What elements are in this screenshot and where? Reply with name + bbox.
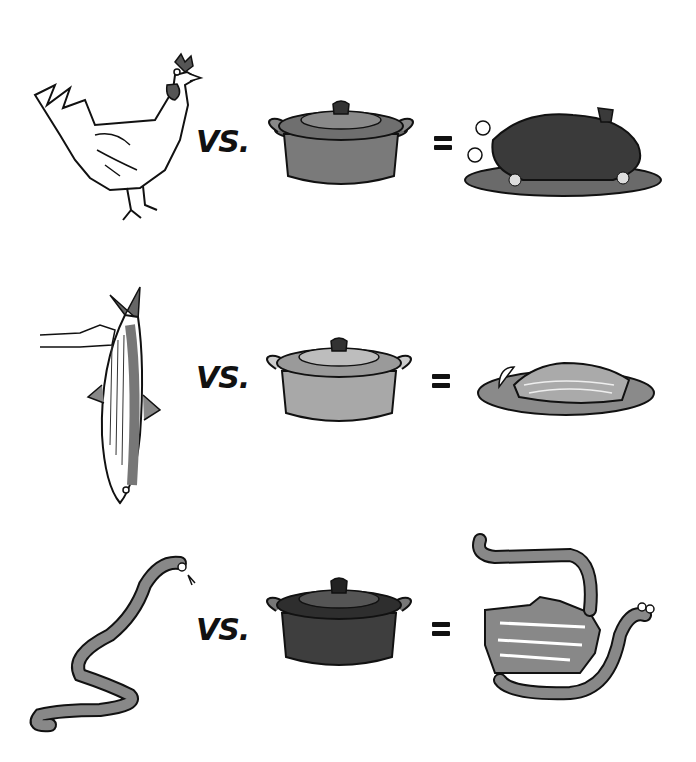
vs-label: VS. <box>196 360 249 395</box>
dutch-oven-icon <box>264 333 414 425</box>
dutch-oven-icon <box>266 96 416 188</box>
snake-shaped-like-pot-icon <box>470 535 660 710</box>
vs-label: VS. <box>196 612 249 647</box>
equals-sign <box>432 374 450 388</box>
snake-icon <box>30 555 200 730</box>
row-fish: VS. <box>0 270 696 520</box>
roast-chicken-on-platter-icon <box>463 100 668 200</box>
chicken-icon <box>25 50 200 230</box>
equals-sign <box>434 136 452 150</box>
dutch-oven-icon <box>264 575 414 670</box>
salmon-fillet-on-plate-icon <box>474 355 659 420</box>
row-chicken: VS. <box>0 0 696 240</box>
vs-label: VS. <box>196 124 249 159</box>
row-snake: VS. <box>0 530 696 762</box>
equals-sign <box>432 622 450 636</box>
fish-held-by-hand-icon <box>40 285 170 510</box>
